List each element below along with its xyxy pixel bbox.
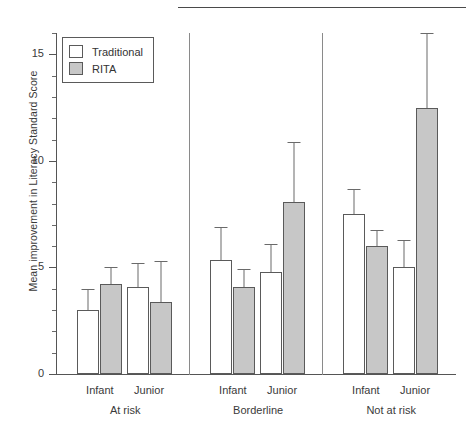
error-bar-rita-5	[416, 33, 438, 108]
bar-rita-4	[366, 246, 388, 374]
error-bar-traditional-1	[127, 263, 149, 286]
x-group-label-0: At risk	[110, 404, 141, 416]
bar-traditional-3	[260, 272, 282, 374]
y-axis-label: Mean improvement in Literacy Standard Sc…	[27, 16, 39, 346]
x-tick-label-junior-2: Junior	[400, 384, 430, 396]
y-tick-minor	[52, 246, 56, 247]
error-bar-cap	[238, 269, 251, 270]
error-bar-cap	[154, 261, 167, 262]
error-bar-stem	[426, 33, 427, 108]
error-bar-stem	[160, 261, 161, 301]
error-bar-stem	[403, 240, 404, 268]
error-bar-traditional-5	[393, 240, 415, 268]
x-tick-label-infant-1: Infant	[219, 384, 247, 396]
y-tick-minor	[52, 310, 56, 311]
y-tick-minor	[52, 33, 56, 34]
figure-caption	[6, 431, 460, 442]
x-tick-label-junior-1: Junior	[267, 384, 297, 396]
y-tick-minor	[52, 76, 56, 77]
group-separator	[189, 33, 190, 375]
error-bar-traditional-0	[77, 289, 99, 310]
bar-traditional-5	[393, 267, 415, 374]
legend-item-traditional: Traditional	[69, 43, 143, 60]
legend: Traditional RITA	[62, 37, 154, 83]
error-bar-rita-3	[283, 142, 305, 203]
legend-swatch-rita	[69, 62, 83, 75]
legend-label-traditional: Traditional	[92, 46, 143, 58]
y-tick-label: 0	[0, 368, 44, 379]
x-tick-label-infant-0: Infant	[86, 384, 114, 396]
error-bar-cap	[420, 33, 433, 34]
error-bar-stem	[270, 244, 271, 272]
y-tick-minor	[52, 118, 56, 119]
bar-rita-5	[416, 108, 438, 374]
error-bar-stem	[293, 142, 294, 203]
error-bar-stem	[88, 289, 89, 310]
bar-rita-0	[100, 284, 122, 374]
x-group-label-2: Not at risk	[366, 404, 416, 416]
error-bar-cap	[348, 189, 361, 190]
y-axis-line	[56, 33, 57, 375]
y-tick-major	[49, 267, 56, 268]
error-bar-traditional-2	[210, 227, 232, 260]
error-bar-stem	[354, 189, 355, 215]
error-bar-cap	[397, 240, 410, 241]
x-tick-label-infant-2: Infant	[352, 384, 380, 396]
bar-traditional-1	[127, 287, 149, 374]
x-group-label-1: Borderline	[233, 404, 283, 416]
top-rule	[178, 7, 466, 8]
error-bar-stem	[377, 230, 378, 246]
error-bar-cap	[215, 227, 228, 228]
error-bar-traditional-4	[343, 189, 365, 215]
bar-traditional-2	[210, 260, 232, 374]
y-tick-minor	[52, 353, 56, 354]
legend-label-rita: RITA	[92, 63, 116, 75]
error-bar-cap	[131, 263, 144, 264]
error-bar-rita-4	[366, 230, 388, 246]
error-bar-cap	[105, 267, 118, 268]
error-bar-rita-1	[150, 261, 172, 301]
error-bar-traditional-3	[260, 244, 282, 272]
group-separator	[322, 33, 323, 375]
legend-swatch-traditional	[69, 45, 83, 58]
bar-rita-2	[233, 287, 255, 374]
y-tick-minor	[52, 97, 56, 98]
error-bar-rita-2	[233, 269, 255, 287]
error-bar-cap	[82, 289, 95, 290]
error-bar-cap	[264, 244, 277, 245]
x-axis-line	[56, 374, 456, 375]
y-tick-major	[49, 374, 56, 375]
error-bar-cap	[371, 230, 384, 231]
bar-rita-3	[283, 202, 305, 374]
y-tick-minor	[52, 182, 56, 183]
y-tick-major	[49, 54, 56, 55]
y-tick-label: 5	[0, 261, 44, 272]
bar-traditional-0	[77, 310, 99, 374]
error-bar-rita-0	[100, 267, 122, 284]
y-tick-major	[49, 161, 56, 162]
y-tick-label: 15	[0, 48, 44, 59]
y-tick-minor	[52, 331, 56, 332]
figure-container: Mean improvement in Literacy Standard Sc…	[0, 0, 466, 443]
error-bar-stem	[244, 269, 245, 287]
legend-item-rita: RITA	[69, 60, 143, 77]
error-bar-stem	[111, 267, 112, 284]
y-tick-label: 10	[0, 155, 44, 166]
bar-rita-1	[150, 302, 172, 374]
x-tick-label-junior-0: Junior	[134, 384, 164, 396]
bar-traditional-4	[343, 214, 365, 374]
error-bar-cap	[287, 142, 300, 143]
y-tick-minor	[52, 140, 56, 141]
error-bar-stem	[137, 263, 138, 286]
y-tick-minor	[52, 225, 56, 226]
error-bar-stem	[221, 227, 222, 260]
y-tick-minor	[52, 204, 56, 205]
y-tick-minor	[52, 289, 56, 290]
